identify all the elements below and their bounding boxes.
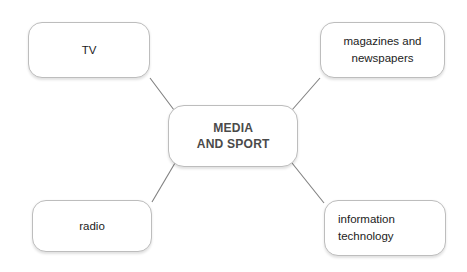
node-radio-label: radio [79, 218, 105, 235]
node-information-technology-label: information technology [325, 211, 395, 244]
node-radio[interactable]: radio [32, 200, 152, 252]
connector-center-radio [152, 163, 175, 202]
connector-center-infotech [292, 163, 324, 203]
connector-center-tv [150, 78, 174, 110]
node-center-topic[interactable]: MEDIA AND SPORT [168, 105, 298, 167]
diagram-canvas: TV magazines and newspapers MEDIA AND SP… [0, 0, 467, 272]
node-center-label: MEDIA AND SPORT [197, 120, 270, 153]
node-information-technology[interactable]: information technology [324, 200, 446, 256]
node-magazines-label: magazines and newspapers [344, 33, 422, 66]
node-magazines[interactable]: magazines and newspapers [320, 22, 445, 78]
connector-center-magazines [292, 78, 320, 110]
node-tv-label: TV [82, 42, 97, 59]
node-tv[interactable]: TV [28, 22, 150, 78]
